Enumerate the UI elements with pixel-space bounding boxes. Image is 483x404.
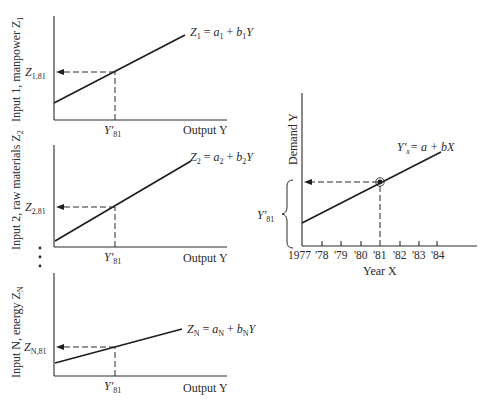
brace-icon	[282, 180, 293, 248]
equation-label: Z2 = a2 + b2Y	[190, 150, 254, 166]
panel-demand: Y′81 Demand Y Y′x= a + bX 1977 '78 '79 '…	[257, 93, 477, 278]
x-marker-label: Y′81	[104, 250, 121, 266]
tick-label: '78	[315, 249, 329, 261]
y-axis-label: Input 2, raw materials Z2	[9, 130, 25, 250]
x-axis-label: Output Y	[183, 251, 228, 265]
equation-label: ZN = aN + bNY	[187, 322, 257, 338]
arrowhead-icon	[56, 344, 64, 350]
x-marker-label: Y′81	[104, 379, 121, 395]
y-axis-label: Input N, energy ZN	[9, 286, 25, 378]
tick-label: '83	[412, 249, 426, 261]
panel-energy: Input N, energy ZN ZN = aN + bNY ZN,81 Y…	[9, 273, 257, 395]
tick-label: '79	[334, 249, 348, 261]
arrowhead-icon	[56, 204, 64, 210]
x-axis-label: Output Y	[183, 123, 228, 137]
regression-line	[55, 329, 182, 363]
tick-label: 1977	[288, 249, 311, 261]
equation-label: Z1 = a1 + b1Y	[190, 25, 254, 41]
forecast-point-icon	[378, 180, 383, 185]
forecast-diagram: Input 1, manpower Z1 Z1 = a1 + b1Y Z1,81…	[0, 0, 483, 404]
tick-label: '82	[393, 249, 407, 261]
regression-line	[55, 161, 191, 241]
tick-label: '84	[431, 249, 445, 261]
tick-label: '81	[373, 249, 387, 261]
demand-trend-line	[302, 152, 441, 223]
panel-manpower: Input 1, manpower Z1 Z1 = a1 + b1Y Z1,81…	[9, 16, 254, 139]
x-axis-label: Output Y	[183, 381, 228, 395]
y-axis-label: Demand Y	[286, 113, 300, 165]
arrowhead-icon	[56, 69, 64, 75]
projected-value-label: Z1,81	[25, 65, 46, 81]
x-axis-label: Year X	[363, 264, 397, 278]
x-marker-label: Y′81	[104, 123, 121, 139]
ellipsis-icon	[39, 247, 42, 268]
projected-value-label: Z2,81	[25, 200, 46, 216]
projected-value-label: ZN,81	[24, 340, 46, 356]
y-axis-label: Input 1, manpower Z1	[9, 17, 25, 122]
brace-label: Y′81	[257, 208, 274, 224]
regression-line	[54, 35, 185, 103]
tick-label: '80	[354, 249, 368, 261]
equation-label: Y′x= a + bX	[397, 140, 455, 156]
x-tick-labels: 1977 '78 '79 '80 '81 '82 '83 '84	[288, 249, 445, 261]
arrowhead-icon	[304, 179, 312, 185]
panel-raw-materials: Input 2, raw materials Z2 Z2 = a2 + b2Y …	[9, 130, 254, 266]
